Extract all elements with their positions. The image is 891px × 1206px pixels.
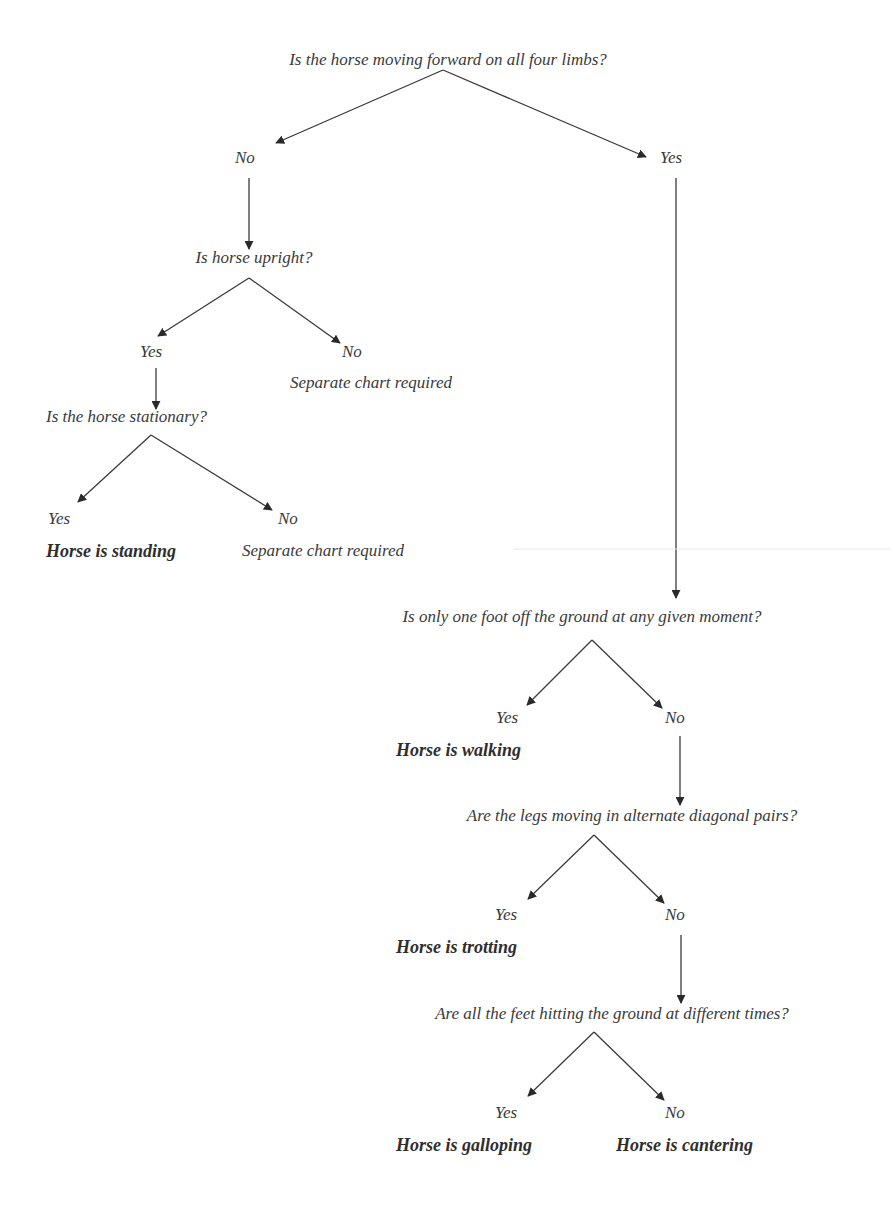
result-trotting: Horse is trotting (396, 937, 517, 957)
result-separate-chart: Separate chart required (290, 373, 452, 393)
question-stationary: Is the horse stationary? (46, 407, 207, 427)
question-one-foot-off: Is only one foot off the ground at any g… (402, 607, 761, 627)
answer-no: No (665, 905, 685, 925)
question-moving-forward: Is the horse moving forward on all four … (289, 50, 607, 70)
answer-yes: Yes (496, 708, 518, 728)
result-cantering: Horse is cantering (616, 1135, 753, 1155)
answer-no: No (278, 509, 298, 529)
result-galloping: Horse is galloping (396, 1135, 532, 1155)
question-diagonal-pairs: Are the legs moving in alternate diagona… (467, 806, 797, 826)
answer-no: No (342, 342, 362, 362)
answer-yes: Yes (660, 148, 682, 168)
answer-yes: Yes (495, 1103, 517, 1123)
answer-yes: Yes (140, 342, 162, 362)
question-upright: Is horse upright? (195, 248, 312, 268)
answer-yes: Yes (495, 905, 517, 925)
result-walking: Horse is walking (396, 740, 521, 760)
answer-yes: Yes (48, 509, 70, 529)
connector-arrows (0, 0, 891, 1206)
question-different-times: Are all the feet hitting the ground at d… (435, 1004, 789, 1024)
answer-no: No (665, 708, 685, 728)
result-separate-chart: Separate chart required (242, 541, 404, 561)
answer-no: No (235, 148, 255, 168)
result-standing: Horse is standing (46, 541, 176, 561)
answer-no: No (665, 1103, 685, 1123)
